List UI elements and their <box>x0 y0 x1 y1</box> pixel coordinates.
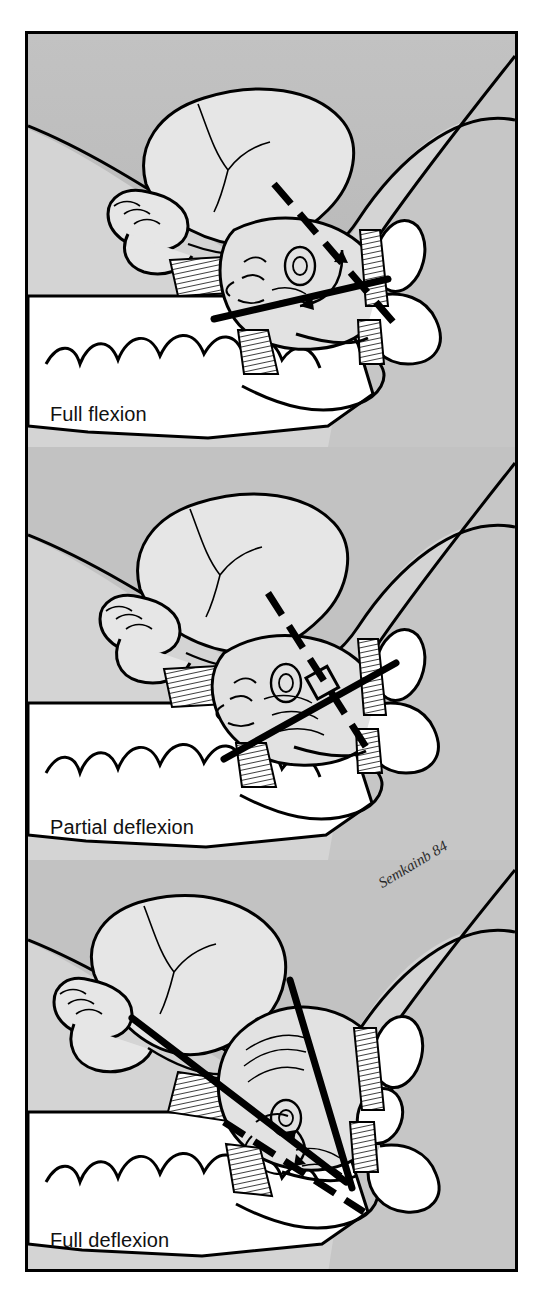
caption-full-deflexion: Full deflexion <box>50 1230 169 1250</box>
pelvic-ligament-hatch-2 <box>358 320 384 364</box>
caption-full-flexion: Full flexion <box>50 404 147 424</box>
pelvic-ligament-hatch-2 <box>350 1122 378 1172</box>
panel-partial-deflexion <box>28 447 515 860</box>
caption-partial-deflexion: Partial deflexion <box>50 817 194 837</box>
panel-2-drawing <box>28 447 515 860</box>
figure-root: Full flexion Partial deflexion Full defl… <box>0 0 537 1297</box>
panel-full-flexion <box>28 34 515 447</box>
panel-full-deflexion <box>28 860 515 1272</box>
illustration-frame: Full flexion Partial deflexion Full defl… <box>25 31 518 1272</box>
panel-1-drawing <box>28 34 515 447</box>
panel-3-drawing <box>28 860 515 1272</box>
